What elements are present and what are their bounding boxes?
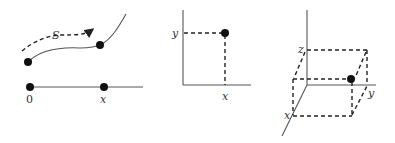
origin-label: 0 <box>26 93 33 106</box>
curve-start-dot <box>24 58 32 66</box>
point-3d-dot <box>347 75 355 83</box>
panel-arc-length: S 0 x <box>22 14 143 106</box>
point-2d-dot <box>221 29 229 37</box>
box-bottom-right-diag <box>352 86 367 115</box>
curve-path <box>28 14 126 62</box>
x-label-3d: x <box>284 109 291 122</box>
panel-2d-coordinates: y x <box>171 10 251 103</box>
origin-dot <box>26 83 34 91</box>
y-label-3d: y <box>367 87 375 100</box>
x-label: x <box>222 90 229 103</box>
position-label: x <box>100 93 107 106</box>
panel-3d-coordinates: z y x <box>282 10 376 136</box>
box-top-right-diag <box>355 52 366 78</box>
position-dot <box>100 83 108 91</box>
arc-label-s: S <box>52 29 60 42</box>
coordinate-systems-figure: S 0 x y x <box>0 0 395 143</box>
curve-point-dot <box>96 41 104 49</box>
y-label: y <box>171 27 179 40</box>
z-label: z <box>297 43 304 56</box>
